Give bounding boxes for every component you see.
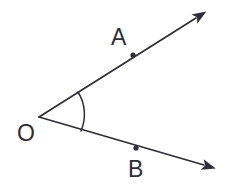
- label-point-b: B: [128, 156, 143, 182]
- geometry-canvas: O A B: [0, 0, 229, 194]
- point-b-marker: [133, 145, 138, 150]
- point-a-marker: [130, 52, 135, 57]
- geometry-figure: O A B: [0, 0, 229, 194]
- angle-arc-icon: [78, 92, 84, 131]
- label-point-a: A: [111, 24, 127, 50]
- label-vertex-o: O: [17, 120, 35, 146]
- ray-ob-line: [39, 117, 204, 165]
